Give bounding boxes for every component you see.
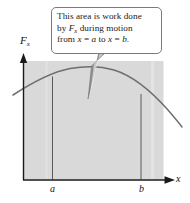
callout-force-subscript: x — [74, 27, 77, 34]
shade-seam-right — [151, 61, 154, 180]
callout-line-1: This area is work done — [57, 11, 142, 21]
y-axis-label-main: F — [20, 34, 27, 46]
y-axis-arrowhead — [20, 53, 27, 63]
callout-period: . — [127, 34, 129, 44]
callout-box: This area is work done by Fx during moti… — [51, 7, 162, 54]
callout-to: to — [96, 34, 108, 44]
y-axis-label: Fx — [20, 34, 30, 46]
tick-label-b: b — [139, 183, 144, 194]
callout-text: This area is work done by Fx during moti… — [57, 11, 157, 46]
work-area-figure: This area is work done by Fx during moti… — [0, 0, 190, 203]
callout-eq1: = — [82, 34, 92, 44]
x-axis-label: x — [176, 173, 180, 184]
callout-line-3-prefix: from — [57, 34, 77, 44]
tick-label-a: a — [50, 183, 55, 194]
shade-seam-left — [46, 61, 48, 180]
callout-line-2-suffix: during motion — [77, 23, 132, 33]
x-axis-arrowhead — [165, 176, 176, 184]
y-axis-label-sub: x — [27, 40, 30, 48]
callout-line-2-prefix: by — [57, 23, 69, 33]
callout-eq2: = — [112, 34, 122, 44]
